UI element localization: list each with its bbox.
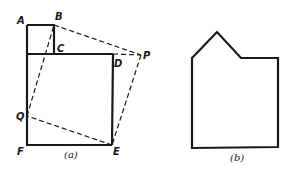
house-shape (192, 32, 278, 148)
small-square (27, 25, 54, 54)
dashed-DP (113, 54, 141, 55)
edge-DE (112, 54, 113, 145)
label-C: C (57, 43, 65, 54)
dashed-QB (27, 25, 54, 116)
label-D: D (114, 58, 122, 69)
diagram-canvas: A B C D P Q F E (a) (b) (0, 0, 294, 178)
dashed-BP (54, 25, 141, 55)
label-B: B (55, 11, 63, 22)
dashed-EQ (27, 116, 112, 145)
label-F: F (17, 146, 24, 157)
label-E: E (113, 146, 120, 157)
figure-b (192, 32, 278, 148)
caption-a: (a) (64, 149, 78, 160)
label-A: A (16, 15, 25, 26)
figure-a (26, 25, 113, 145)
label-Q: Q (16, 111, 25, 122)
caption-b: (b) (230, 152, 244, 163)
label-P: P (143, 50, 151, 61)
figure-a-dashed (27, 25, 141, 145)
